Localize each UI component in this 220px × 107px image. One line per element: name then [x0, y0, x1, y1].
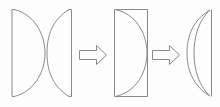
- stage-2-group: [115, 10, 148, 97]
- diagram-canvas: Three-stage schematic: two separate plan…: [0, 0, 220, 107]
- stage-3-group: [187, 10, 212, 97]
- biconvex-lens: [187, 10, 210, 96]
- process-arrow-2-group: [153, 46, 180, 65]
- bonded-lens-blank-outline: [115, 10, 148, 97]
- bonded-lens-internal-arc: [116, 10, 147, 97]
- stage-1-group: [12, 10, 72, 97]
- process-arrow-2: [153, 46, 180, 65]
- plano-convex-lens-left: [12, 10, 45, 97]
- lens-process-diagram: [0, 0, 220, 107]
- process-arrow-1-group: [80, 46, 107, 65]
- concave-convex-lens-right: [47, 10, 72, 97]
- process-arrow-1: [80, 46, 107, 65]
